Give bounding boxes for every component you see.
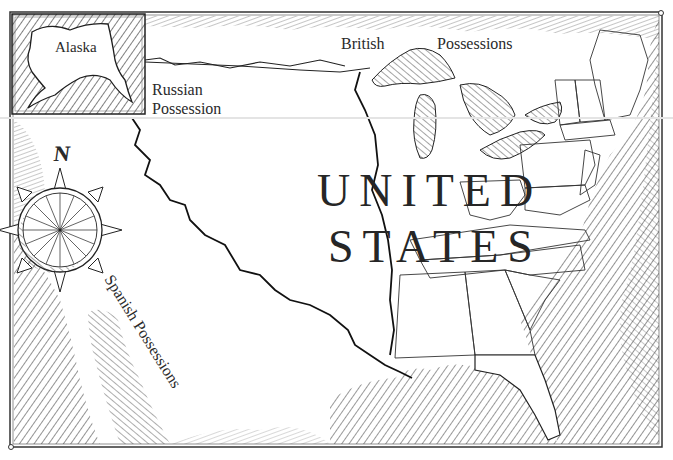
map-title-line-2: STATES — [328, 224, 542, 270]
compass-north-label: N — [52, 143, 71, 165]
map-title-line-1: UNITED — [317, 168, 542, 214]
scan-artifact-line — [0, 117, 673, 119]
alaska-label: Alaska — [55, 40, 97, 55]
historical-map: N Alaska British Possessions Russian Pos… — [0, 0, 673, 460]
british-label: British — [341, 36, 385, 52]
russian-possession-label: Possession — [152, 101, 221, 117]
british-possessions-label: Possessions — [437, 36, 513, 52]
russian-label: Russian — [152, 82, 203, 98]
alaska-inset — [12, 14, 145, 114]
